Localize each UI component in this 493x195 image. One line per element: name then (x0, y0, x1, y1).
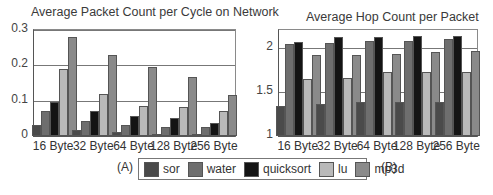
bar-lu (219, 111, 228, 136)
bar-lu (179, 107, 188, 136)
chart-a-panel-label: (A) (117, 160, 133, 174)
chart-a-title: Average Packet Count per Cycle on Networ… (31, 5, 279, 19)
bar-quicksort (453, 36, 462, 136)
bar-lu (139, 106, 148, 136)
legend-label: quicksort (263, 162, 311, 176)
bar-lu (99, 94, 108, 136)
chart-b-plot-area (278, 29, 478, 137)
chart-legend: sor water quicksort lu mp3d (138, 158, 367, 180)
bar-lu (59, 69, 68, 136)
bar-water (404, 41, 413, 136)
bar-water (161, 127, 170, 136)
legend-item-sor: sor (144, 162, 180, 177)
bar-mp3d (108, 55, 117, 136)
legend-item-mp3d: mp3d (355, 162, 404, 177)
bar-quicksort (90, 111, 99, 136)
legend-item-lu: lu (319, 162, 347, 177)
legend-item-quicksort: quicksort (244, 162, 311, 177)
bar-sor (316, 104, 325, 136)
bar-water (365, 41, 374, 136)
bar-quicksort (294, 42, 303, 136)
bar-lu (343, 78, 352, 136)
legend-label: water (207, 162, 236, 176)
bar-sor (152, 134, 161, 136)
legend-label: lu (338, 162, 347, 176)
bar-quicksort (50, 102, 59, 136)
bar-sor (192, 134, 201, 136)
bar-mp3d (228, 95, 237, 136)
y-tick-label: 0 (0, 127, 28, 141)
bar-sor (32, 125, 41, 136)
bar-quicksort (170, 118, 179, 136)
legend-swatch-sor (144, 162, 159, 177)
bar-water (285, 44, 294, 136)
y-tick-label: 0.1 (0, 92, 28, 106)
bar-sor (356, 102, 365, 136)
bar-water (325, 43, 334, 136)
chart-b-title: Average Hop Count per Packet (306, 10, 479, 24)
bar-water (444, 39, 453, 136)
chart-a-plot-area (33, 29, 236, 137)
bar-quicksort (210, 123, 219, 136)
bar-sor (395, 102, 404, 136)
bar-mp3d (471, 51, 480, 136)
legend-item-water: water (188, 162, 236, 177)
bar-quicksort (374, 37, 383, 136)
bar-sor (72, 130, 81, 136)
bar-quicksort (334, 37, 343, 136)
bar-mp3d (148, 67, 157, 136)
bar-sor (276, 106, 285, 136)
bar-lu (303, 79, 312, 136)
legend-swatch-water (188, 162, 203, 177)
bar-water (81, 121, 90, 136)
legend-swatch-quicksort (244, 162, 259, 177)
bar-lu (383, 72, 392, 136)
legend-label: mp3d (374, 162, 404, 176)
bar-water (41, 111, 50, 136)
bar-lu (462, 72, 471, 136)
bar-sor (112, 132, 121, 136)
y-tick-label: 1.5 (245, 83, 273, 97)
x-tick-label: 256 Byte (188, 139, 240, 153)
y-tick-label: 1 (245, 127, 273, 141)
legend-swatch-mp3d (355, 162, 370, 177)
gridline (34, 65, 235, 66)
bar-mp3d (68, 37, 77, 136)
bar-lu (422, 72, 431, 136)
x-tick-label: 256 Byte (430, 139, 482, 153)
y-tick-label: 2 (245, 39, 273, 53)
legend-label: sor (163, 162, 180, 176)
bar-quicksort (130, 116, 139, 136)
bar-sor (435, 102, 444, 136)
y-tick-label: 0.2 (0, 56, 28, 70)
bar-quicksort (413, 36, 422, 136)
y-tick-label: 0.3 (0, 21, 28, 35)
gridline (34, 30, 235, 31)
bar-water (201, 127, 210, 136)
legend-swatch-lu (319, 162, 334, 177)
bar-mp3d (188, 77, 197, 136)
bar-water (121, 125, 130, 136)
